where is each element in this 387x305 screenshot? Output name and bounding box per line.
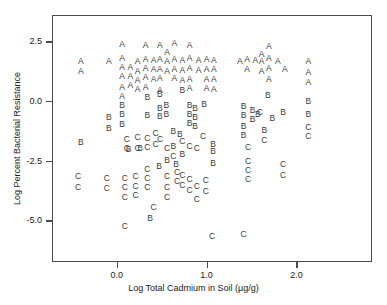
data-point-c: C bbox=[203, 176, 209, 185]
data-point-b: B bbox=[157, 90, 163, 99]
data-point-a: A bbox=[180, 75, 186, 84]
data-point-a: A bbox=[135, 67, 141, 76]
data-point-c: C bbox=[144, 183, 150, 192]
data-point-a: A bbox=[164, 67, 170, 76]
data-point-a: A bbox=[164, 57, 170, 66]
data-point-a: A bbox=[143, 73, 149, 82]
data-point-a: A bbox=[305, 77, 311, 86]
data-point-a: A bbox=[180, 66, 186, 75]
y-axis-tick-mark bbox=[46, 101, 52, 102]
x-axis-label: Log Total Cadmium in Soil (µg/g) bbox=[0, 283, 387, 293]
data-point-a: A bbox=[204, 65, 210, 74]
data-point-a: A bbox=[127, 81, 133, 90]
data-point-b: B bbox=[261, 126, 267, 135]
data-point-a: A bbox=[157, 41, 163, 50]
data-point-b: B bbox=[201, 100, 207, 109]
data-point-a: A bbox=[78, 56, 84, 65]
data-point-a: A bbox=[305, 68, 311, 77]
x-axis-tick-label: 0.0 bbox=[97, 270, 137, 280]
data-point-a: A bbox=[266, 75, 272, 84]
data-point-c: C bbox=[144, 143, 150, 152]
data-point-c: C bbox=[133, 172, 139, 181]
plot-area-frame: AAAAAAAAAAAAAAAAAAAAAAAAAAAAAAAAAAAAAAAA… bbox=[52, 15, 372, 262]
data-point-a: A bbox=[187, 54, 193, 63]
data-point-b: B bbox=[210, 147, 216, 156]
data-point-b: B bbox=[164, 156, 170, 165]
data-point-b: B bbox=[180, 150, 186, 159]
x-axis-tick-mark bbox=[117, 262, 118, 268]
data-point-c: C bbox=[305, 132, 311, 141]
data-point-c: C bbox=[187, 175, 193, 184]
data-point-c: C bbox=[122, 182, 128, 191]
data-point-a: A bbox=[119, 40, 125, 49]
data-point-c: C bbox=[203, 186, 209, 195]
data-point-c: C bbox=[157, 135, 163, 144]
data-point-b: B bbox=[171, 142, 177, 151]
data-point-a: A bbox=[143, 83, 149, 92]
data-point-c: C bbox=[245, 175, 251, 184]
y-axis-tick-mark bbox=[46, 161, 52, 162]
data-point-c: C bbox=[164, 172, 170, 181]
data-point-c: C bbox=[209, 232, 215, 241]
data-point-c: C bbox=[187, 185, 193, 194]
data-point-a: A bbox=[180, 56, 186, 65]
data-point-a: A bbox=[187, 40, 193, 49]
data-point-a: A bbox=[266, 42, 272, 51]
data-point-a: A bbox=[252, 56, 258, 65]
data-point-a: A bbox=[282, 64, 288, 73]
data-point-a: A bbox=[78, 67, 84, 76]
data-point-c: C bbox=[164, 144, 170, 153]
data-point-a: A bbox=[204, 74, 210, 83]
data-point-a: A bbox=[119, 72, 125, 81]
data-point-c: C bbox=[134, 143, 140, 152]
data-point-b: B bbox=[106, 124, 112, 133]
scatter-plot-figure: AAAAAAAAAAAAAAAAAAAAAAAAAAAAAAAAAAAAAAAA… bbox=[0, 0, 387, 305]
data-point-c: C bbox=[179, 181, 185, 190]
y-axis-tick-label: 2.5 bbox=[8, 36, 42, 46]
data-point-b: B bbox=[265, 91, 271, 100]
data-point-a: A bbox=[143, 64, 149, 73]
data-point-c: C bbox=[257, 108, 263, 117]
data-point-b: B bbox=[241, 131, 247, 140]
data-point-c: C bbox=[170, 151, 176, 160]
data-point-c: C bbox=[151, 203, 157, 212]
y-axis-tick-mark bbox=[46, 220, 52, 221]
data-point-c: C bbox=[280, 160, 286, 169]
data-point-c: C bbox=[179, 171, 185, 180]
data-point-a: A bbox=[211, 84, 217, 93]
data-point-b: B bbox=[192, 122, 198, 131]
data-point-a: A bbox=[151, 65, 157, 74]
data-point-c: C bbox=[245, 143, 251, 152]
data-point-a: A bbox=[196, 65, 202, 74]
data-point-b: B bbox=[145, 92, 151, 101]
data-point-a: A bbox=[187, 83, 193, 92]
data-point-c: C bbox=[122, 221, 128, 230]
data-point-c: C bbox=[187, 142, 193, 151]
data-point-c: C bbox=[133, 182, 139, 191]
data-point-a: A bbox=[211, 56, 217, 65]
y-axis-tick-label: -5.0 bbox=[8, 215, 42, 225]
data-point-b: B bbox=[210, 159, 216, 168]
y-axis-label: Log Percent Bacterial Resistance bbox=[12, 72, 22, 205]
data-points-layer: AAAAAAAAAAAAAAAAAAAAAAAAAAAAAAAAAAAAAAAA… bbox=[53, 16, 371, 261]
data-point-c: C bbox=[75, 182, 81, 191]
data-point-a: A bbox=[187, 64, 193, 73]
data-point-c: C bbox=[194, 195, 200, 204]
data-point-a: A bbox=[211, 75, 217, 84]
data-point-a: A bbox=[172, 55, 178, 64]
x-axis-tick-mark bbox=[207, 262, 208, 268]
data-point-b: B bbox=[163, 110, 169, 119]
x-axis-tick-label: 1.0 bbox=[187, 270, 227, 280]
data-point-a: A bbox=[204, 55, 210, 64]
data-point-a: A bbox=[106, 57, 112, 66]
data-point-c: C bbox=[124, 144, 130, 153]
data-point-c: C bbox=[104, 174, 110, 183]
data-point-c: C bbox=[240, 230, 246, 239]
data-point-c: C bbox=[200, 132, 206, 141]
data-point-b: B bbox=[145, 111, 151, 120]
data-point-b: B bbox=[163, 101, 169, 110]
data-point-a: A bbox=[151, 75, 157, 84]
data-point-b: B bbox=[78, 138, 84, 147]
data-point-b: B bbox=[119, 120, 125, 129]
data-point-b: B bbox=[269, 114, 275, 123]
